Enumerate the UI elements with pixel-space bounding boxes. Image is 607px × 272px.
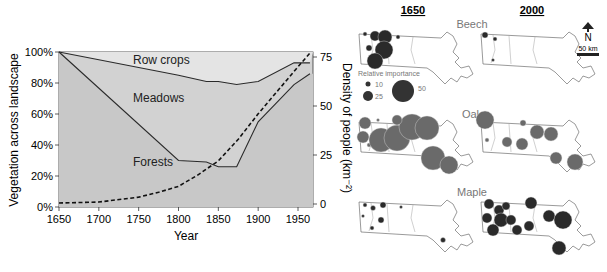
x-tick: 1650 (47, 213, 71, 225)
importance-circle (552, 241, 566, 255)
legend-label-25: 25 (375, 93, 383, 100)
tree-importance-maps: 1650 2000 Beech Oak Maple N 50 km Relati… (355, 0, 607, 272)
x-tick: 1750 (126, 213, 150, 225)
y-tick-left: 20% (31, 170, 53, 182)
importance-circle (377, 119, 380, 122)
y-tick-left: 80% (31, 77, 53, 89)
y-tick-left: 60% (31, 108, 53, 120)
x-axis-label: Year (174, 229, 198, 243)
importance-circle (441, 238, 446, 243)
map-maple-2000 (481, 197, 595, 255)
legend-circle-10 (366, 82, 371, 87)
importance-circle (482, 32, 488, 38)
importance-circle (378, 217, 384, 223)
y-tick-right: 25 (320, 149, 332, 161)
importance-circle (392, 115, 402, 125)
importance-circle (484, 199, 494, 209)
importance-circle (543, 210, 555, 222)
importance-circle (524, 221, 534, 231)
column-header-1650: 1650 (401, 4, 425, 16)
legend-label-10: 10 (375, 81, 383, 88)
map-beech-2000 (481, 32, 595, 84)
importance-circle (363, 32, 367, 36)
importance-circle (493, 37, 497, 41)
importance-circle (359, 117, 371, 129)
y-axis-label-left: Vegetation across landscape (7, 53, 21, 207)
importance-circle (400, 206, 403, 209)
north-arrow-icon (582, 22, 594, 32)
importance-circle (415, 116, 439, 140)
importance-circle (367, 53, 383, 69)
importance-circle (366, 45, 372, 51)
legend-title: Relative importance (358, 70, 420, 78)
importance-circle (567, 154, 583, 170)
y-axis-label-right: Density of people (km⁻²) (340, 63, 354, 193)
importance-circle (525, 197, 537, 209)
importance-circle (520, 120, 526, 126)
region-label-meadows: Meadows (133, 91, 184, 105)
importance-circle (440, 156, 458, 174)
importance-circle (550, 152, 562, 164)
map-oak-2000 (476, 111, 595, 172)
importance-circle (492, 59, 495, 62)
importance-circle (482, 213, 492, 223)
land-use-chart: Row crops Meadows Forests 0%20%40%60%80%… (0, 0, 355, 272)
x-tick: 1950 (286, 213, 310, 225)
importance-circle (530, 125, 544, 139)
importance-circle (363, 203, 367, 207)
region-label-forests: Forests (133, 155, 173, 169)
row-label-maple: Maple (457, 186, 487, 198)
y-tick-right: 0 (320, 198, 326, 210)
legend-circle-50 (392, 80, 414, 102)
importance-circle (362, 215, 365, 218)
column-header-2000: 2000 (520, 4, 544, 16)
importance-circle (396, 35, 400, 39)
importance-circle (357, 131, 369, 143)
importance-circle (502, 137, 512, 147)
importance-circle (544, 127, 558, 141)
y-tick-right: 50 (320, 100, 332, 112)
importance-circle (506, 215, 516, 225)
x-tick: 1700 (87, 213, 111, 225)
importance-circle (476, 111, 494, 129)
north-label: N (584, 32, 591, 43)
importance-circle (487, 224, 499, 236)
importance-circle (380, 202, 386, 208)
region-label-row-crops: Row crops (133, 53, 190, 67)
scale-label: 50 km (578, 45, 597, 52)
map-maple-1650 (359, 200, 473, 252)
scale-bar (577, 53, 599, 56)
x-tick: 1900 (246, 213, 270, 225)
y-tick-left: 40% (31, 139, 53, 151)
row-label-beech: Beech (456, 18, 487, 30)
legend-circle-25 (363, 91, 373, 101)
importance-circle (512, 225, 522, 235)
x-tick: 1850 (206, 213, 230, 225)
y-tick-left: 100% (25, 46, 53, 58)
legend-label-50: 50 (418, 85, 426, 92)
y-tick-left: 0% (37, 201, 53, 213)
importance-circle (516, 138, 528, 150)
importance-circle (554, 211, 572, 229)
map-oak-1650 (357, 114, 473, 174)
importance-circle (485, 138, 489, 142)
importance-circle (371, 206, 376, 211)
importance-circle (370, 226, 374, 230)
x-tick: 1800 (166, 213, 190, 225)
y-tick-right: 75 (320, 51, 332, 63)
importance-circle (502, 202, 510, 210)
